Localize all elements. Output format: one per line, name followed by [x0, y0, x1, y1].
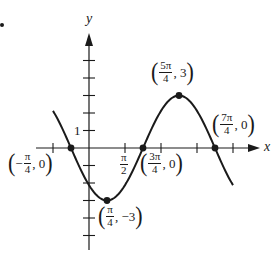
- key-point-marker: [176, 92, 183, 99]
- y-axis-arrow-icon: [85, 33, 93, 46]
- y-axis-label: y: [86, 12, 92, 26]
- key-point-marker: [68, 145, 75, 152]
- y-tick-label-1: 1: [74, 124, 81, 137]
- x-tick-label-pi-over-2: π 2: [119, 150, 129, 176]
- point-label-5pi-4: ( 5π4 , 3 ): [151, 60, 194, 84]
- x-axis-arrow-icon: [248, 144, 260, 152]
- x-axis-label: x: [264, 140, 270, 154]
- point-label-neg-pi-4: ( − π4 , 0 ): [8, 151, 53, 175]
- key-point-marker: [212, 145, 219, 152]
- point-label-pi-4: ( π4 , −3 ): [98, 204, 143, 228]
- point-label-7pi-4: ( 7π4 , 0 ): [212, 112, 255, 136]
- list-bullet-icon: [0, 23, 4, 27]
- fraction: π 2: [120, 152, 128, 176]
- point-label-3pi-4: ( 3π4 , 0 ): [140, 151, 183, 175]
